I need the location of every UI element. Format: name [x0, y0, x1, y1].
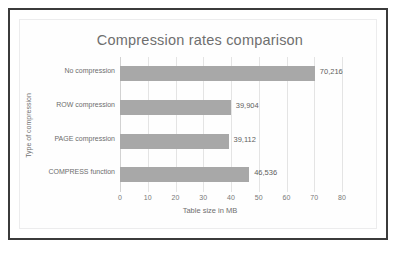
bar-row: No compression70,216 [120, 57, 342, 91]
x-tick-label: 80 [338, 194, 346, 201]
bar-row: COMPRESS function46,536 [120, 158, 342, 192]
x-tick-label: 50 [255, 194, 263, 201]
x-tick-label: 60 [283, 194, 291, 201]
plot-area: No compression70,216ROW compression39,90… [120, 57, 342, 192]
screenshot-root: Compression rates comparison Type of com… [0, 0, 396, 254]
bar-value-label: 39,904 [236, 101, 259, 110]
bar-category-label: No compression [64, 67, 115, 74]
bar-value-label: 46,536 [254, 168, 277, 177]
bar-category-label: ROW compression [56, 101, 115, 108]
x-axis-title: Table size in MB [120, 206, 300, 215]
x-tick-label: 20 [172, 194, 180, 201]
bar-row: PAGE compression39,112 [120, 125, 342, 159]
gridline [342, 57, 343, 192]
x-tick-label: 10 [144, 194, 152, 201]
x-tick-label: 0 [118, 194, 122, 201]
bar-value-label: 70,216 [320, 67, 343, 76]
bar-row: ROW compression39,904 [120, 91, 342, 125]
bar [120, 100, 231, 115]
x-tick-label: 70 [310, 194, 318, 201]
y-axis-title: Type of compression [25, 81, 32, 171]
x-axis-tick-labels: 01020304050607080 [120, 194, 342, 206]
x-tick-label: 30 [199, 194, 207, 201]
chart-title: Compression rates comparison [10, 32, 390, 48]
bar-category-label: PAGE compression [54, 135, 115, 142]
bar [120, 134, 229, 149]
x-tick-label: 40 [227, 194, 235, 201]
bar-category-label: COMPRESS function [48, 168, 115, 175]
bar [120, 66, 315, 81]
bar [120, 167, 249, 182]
chart-outer-frame: Compression rates comparison Type of com… [8, 8, 388, 240]
chart-canvas: Compression rates comparison Type of com… [10, 10, 390, 238]
bar-value-label: 39,112 [234, 135, 256, 144]
